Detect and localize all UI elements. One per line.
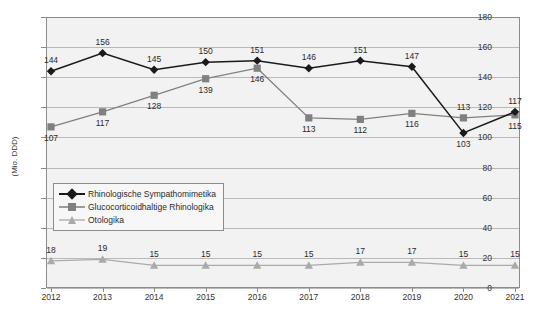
series-marker — [98, 49, 106, 57]
series-marker — [202, 75, 209, 82]
data-point-label: 15 — [446, 249, 480, 259]
data-point-label: 18 — [34, 245, 68, 255]
data-point-label: 15 — [292, 249, 326, 259]
series-marker — [99, 108, 106, 115]
series-marker — [253, 56, 261, 64]
legend-item[interactable]: Glucocorticoidhaltige Rhinologika — [59, 200, 216, 213]
series-marker — [150, 65, 158, 73]
data-point-label: 15 — [189, 249, 223, 259]
legend-marker-diamond-icon — [59, 188, 85, 199]
data-point-label: 117 — [86, 118, 120, 128]
data-point-label: 112 — [343, 125, 377, 135]
data-point-label: 117 — [498, 96, 532, 106]
data-point-label: 144 — [34, 55, 68, 65]
series-marker — [151, 92, 158, 99]
data-point-label: 145 — [137, 54, 171, 64]
legend: Rhinologische Sympathomimetika Glucocort… — [53, 183, 224, 231]
series-marker — [460, 114, 467, 121]
data-point-label: 139 — [189, 85, 223, 95]
data-point-label: 151 — [343, 45, 377, 55]
series-marker — [254, 65, 261, 72]
data-point-label: 147 — [395, 51, 429, 61]
data-point-label: 15 — [137, 249, 171, 259]
data-point-label: 17 — [395, 246, 429, 256]
legend-label: Rhinologische Sympathomimetika — [85, 189, 216, 199]
data-point-label: 116 — [395, 119, 429, 129]
data-point-label: 113 — [292, 124, 326, 134]
legend-marker-square-icon — [59, 201, 85, 212]
series-marker — [357, 116, 364, 123]
legend-marker-triangle-icon — [59, 214, 85, 225]
legend-item[interactable]: Rhinologische Sympathomimetika — [59, 187, 216, 200]
data-point-label: 107 — [34, 133, 68, 143]
data-point-label: 146 — [292, 52, 326, 62]
data-point-label: 15 — [240, 249, 274, 259]
series-marker — [201, 58, 209, 66]
series-marker — [356, 56, 364, 64]
data-point-label: 113 — [446, 102, 480, 112]
data-point-label: 150 — [189, 46, 223, 56]
data-point-label: 15 — [498, 249, 532, 259]
series-marker — [47, 123, 54, 130]
data-point-label: 151 — [240, 45, 274, 55]
series-line — [51, 259, 515, 265]
series-marker — [47, 67, 55, 75]
data-point-label: 103 — [446, 139, 480, 149]
series-marker — [305, 64, 313, 72]
data-point-label: 128 — [137, 101, 171, 111]
data-point-label: 17 — [343, 246, 377, 256]
chart-container: 020406080100120140160180 (Mio. DDD) 2012… — [0, 0, 540, 320]
legend-item[interactable]: Otologika — [59, 213, 216, 226]
data-point-label: 146 — [240, 74, 274, 84]
series-marker — [408, 110, 415, 117]
data-point-label: 115 — [498, 121, 532, 131]
legend-label: Otologika — [85, 215, 124, 225]
series-line — [51, 68, 515, 127]
legend-label: Glucocorticoidhaltige Rhinologika — [85, 202, 214, 212]
series-marker — [305, 114, 312, 121]
data-point-label: 19 — [86, 243, 120, 253]
data-point-label: 156 — [86, 37, 120, 47]
